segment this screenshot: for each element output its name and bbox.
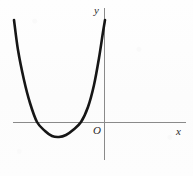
x-axis-label: x bbox=[176, 126, 181, 137]
plot-canvas bbox=[0, 0, 193, 176]
y-axis-label: y bbox=[94, 5, 99, 16]
origin-label: O bbox=[93, 125, 101, 136]
parabola-curve bbox=[14, 20, 105, 137]
parabola-figure: y x O bbox=[0, 0, 193, 176]
